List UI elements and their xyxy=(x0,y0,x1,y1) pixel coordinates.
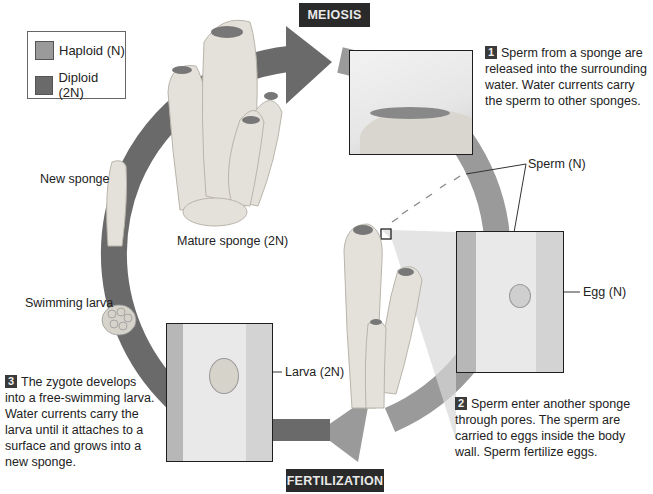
label-larva: Larva (2N) xyxy=(285,365,344,379)
step-3: 3The zygote develops into a free-swimmin… xyxy=(5,374,155,470)
legend-item-diploid: Diploid (2N) xyxy=(35,70,125,100)
inset-body-wall-larva xyxy=(166,323,273,462)
label-mature-sponge: Mature sponge (2N) xyxy=(177,234,288,248)
step-number-1: 1 xyxy=(485,46,497,59)
step-number-2: 2 xyxy=(455,397,467,410)
osculum-illustration xyxy=(370,107,450,119)
label-new-sponge: New sponge xyxy=(40,172,110,186)
step-number-3: 3 xyxy=(5,375,17,388)
step-text-1: Sperm from a sponge are released into th… xyxy=(485,46,647,108)
egg-illustration xyxy=(509,284,531,308)
step-2: 2Sperm enter another sponge through pore… xyxy=(455,396,645,460)
diploid-swatch xyxy=(35,76,53,95)
larva-illustration xyxy=(209,358,239,394)
step-text-2: Sperm enter another sponge through pores… xyxy=(455,397,630,459)
inset-sperm-release xyxy=(349,50,473,155)
label-swimming-larva: Swimming larva xyxy=(25,296,113,310)
stage-meiosis: MEIOSIS xyxy=(299,3,370,27)
step-1: 1Sperm from a sponge are released into t… xyxy=(485,45,650,109)
legend-label-haploid: Haploid (N) xyxy=(59,43,125,58)
stage-fertilization: FERTILIZATION xyxy=(286,469,384,492)
label-egg: Egg (N) xyxy=(583,285,626,299)
inset-body-wall-egg xyxy=(456,231,564,373)
legend-item-haploid: Haploid (N) xyxy=(35,41,125,60)
step-text-3: The zygote develops into a free-swimming… xyxy=(5,375,154,469)
legend: Haploid (N) Diploid (2N) xyxy=(27,31,126,99)
label-sperm: Sperm (N) xyxy=(528,157,586,171)
legend-label-diploid: Diploid (2N) xyxy=(58,70,125,100)
haploid-swatch xyxy=(35,41,54,60)
arrow-head-meiosis xyxy=(286,26,332,104)
